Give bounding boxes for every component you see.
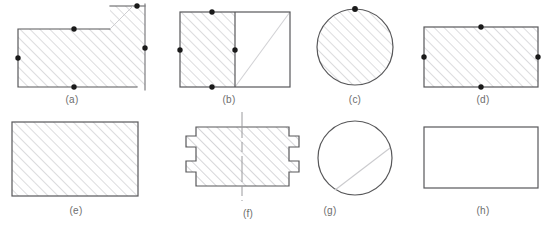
figure-caption-g: (g) <box>324 205 337 216</box>
figure-c-vertex-dot <box>352 6 358 12</box>
figure-d-hatch-fill <box>424 27 538 87</box>
figure-caption-f: (f) <box>243 208 253 219</box>
figure-g <box>318 121 392 195</box>
figure-d-vertex-dot <box>421 54 426 59</box>
figure-a <box>15 3 147 90</box>
figure-b-vertex-dot <box>177 47 182 52</box>
figure-b-vertex-dot <box>209 84 214 89</box>
figure-d-vertex-dot <box>478 84 483 89</box>
figure-caption-e: (e) <box>70 205 83 216</box>
figure-b <box>177 9 291 89</box>
figure-caption-h: (h) <box>477 205 490 216</box>
figure-d-vertex-dot <box>535 54 540 59</box>
diagram-canvas: (a) (b) (c) (d) (e) (f) (g) (h) <box>0 0 553 226</box>
figure-a-vertex-dot <box>71 26 76 31</box>
figure-g-outline <box>318 121 392 195</box>
figure-caption-d: (d) <box>477 94 490 105</box>
figure-a-vertex-dot <box>71 84 76 89</box>
figure-h <box>424 127 538 188</box>
figure-caption-b: (b) <box>223 94 236 105</box>
figure-c <box>317 6 393 85</box>
figure-b-vertex-dot <box>232 47 237 52</box>
figure-e <box>12 122 138 196</box>
figure-a-vertex-dot <box>15 55 20 60</box>
figure-b-vertex-dot <box>209 9 214 14</box>
figure-caption-c: (c) <box>349 94 361 105</box>
figure-caption-a: (a) <box>66 94 79 105</box>
figure-sheet <box>0 0 553 226</box>
figure-d-vertex-dot <box>478 24 483 29</box>
figure-h-outline <box>424 127 538 188</box>
figure-b-hatch-fill <box>180 12 235 87</box>
figure-d <box>421 24 540 89</box>
figure-a-hatch-fill <box>18 6 145 87</box>
figure-f <box>186 112 299 201</box>
figure-a-vertex-dot <box>134 3 139 8</box>
figure-a-vertex-dot <box>142 45 147 50</box>
